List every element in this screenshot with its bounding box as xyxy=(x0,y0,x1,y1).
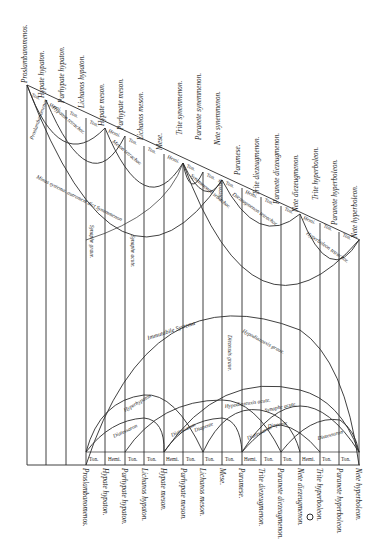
circle-marker-icon xyxy=(307,514,313,520)
label-hyperhypaton: Hyperhypaton xyxy=(122,392,153,413)
top-note-2: Parhypate hypaton. xyxy=(58,46,66,104)
label-proslambanomenos: Proslambanomenos xyxy=(28,98,49,141)
bottom-cell-13: Ton. xyxy=(341,456,350,462)
top-note-16: Paranete hyperboleon. xyxy=(331,159,339,226)
vertical-lines xyxy=(27,85,359,465)
bottom-note-8: Paramese. xyxy=(237,467,245,499)
top-note-10: Nete synemmenon. xyxy=(214,91,222,146)
bottom-cell-12: Ton. xyxy=(322,456,331,462)
bottom-cell-6: Ton. xyxy=(205,456,214,462)
top-note-13: Paranete diezeugmenon. xyxy=(273,133,281,205)
bottom-note-7: Mese. xyxy=(218,467,226,485)
bottom-note-14: Nete hyperboleon. xyxy=(354,467,362,521)
bottom-cell-10: Ton. xyxy=(283,456,292,462)
top-note-9: Paranete synemmenon. xyxy=(195,73,203,141)
label-immutable-system: Immutabile Systema xyxy=(145,319,196,341)
bottom-cell-3: Ton. xyxy=(147,456,156,462)
bottom-cell-11: Hemi. xyxy=(302,456,315,462)
top-note-1: Hypate hypaton. xyxy=(38,50,46,99)
bottom-cell-4: Hemi. xyxy=(166,456,179,462)
bottom-note-4: Hypate meson. xyxy=(159,467,167,511)
top-note-4: Hypate meson. xyxy=(98,83,106,127)
top-note-14: Nete diezeugmenon. xyxy=(292,154,300,213)
top-cell-8: Ton. xyxy=(186,162,197,171)
bottom-note-13: Paranete hyperboleon. xyxy=(335,467,343,534)
bottom-note-9: Trite diezeugmenon. xyxy=(257,468,265,526)
top-note-12: Trite diezeugmenon. xyxy=(253,137,261,195)
top-note-3: Lichanos hypaton. xyxy=(78,55,86,109)
bottom-note-labels: Proslambanomenos. Hypate hypaton. Parhyp… xyxy=(81,467,362,539)
bottom-cell-labels: Ton. Hemi. Ton. Ton. Hemi. Ton. Ton. Ton… xyxy=(89,456,350,462)
top-note-5: Parhypate meson. xyxy=(117,78,125,131)
bottom-note-1: Hypate hypaton. xyxy=(101,467,109,516)
bottom-note-2: Parhypate hypaton. xyxy=(120,467,128,525)
label-outer-system: Minus systema, autrement dict Synemmenon xyxy=(35,173,124,222)
label-diezeuxis-graue: Diezeuxis graue. xyxy=(227,334,233,371)
label-synaphe-graue: Synaphe graue. xyxy=(89,225,95,259)
top-note-6: Lichanos meson. xyxy=(137,91,145,141)
bottom-note-10: Paranete diezeugmenon. xyxy=(276,467,284,539)
bottom-cell-2: Ton. xyxy=(128,456,137,462)
top-note-0: Proslambanomenos. xyxy=(21,24,29,84)
bottom-cell-5: Ton. xyxy=(186,456,195,462)
top-note-8: Trite synemmenon. xyxy=(176,80,184,135)
bottom-note-6: Lichanos meson. xyxy=(198,467,206,517)
top-note-15: Trite hyperboleon. xyxy=(312,147,320,200)
bottom-cell-9: Ton. xyxy=(264,456,273,462)
music-system-diagram: Proslambanomenos. Hypate hypaton. Parhyp… xyxy=(0,0,384,539)
bottom-arcs xyxy=(86,316,359,465)
label-diezeuxis: Diezeuxis xyxy=(217,179,223,201)
top-note-17: Nete hyperboleon. xyxy=(351,185,359,239)
bottom-note-11: Nete diezeugmenon. xyxy=(296,467,304,526)
top-cell-14: Hemi. xyxy=(303,214,317,225)
bottom-note-12: Trite hyperboleon. xyxy=(315,468,323,521)
top-note-11: Paramese. xyxy=(234,144,242,176)
top-cell-labels: Ton. Hemi. Ton. Ton. Hemi. Ton. Ton. Hem… xyxy=(31,91,353,240)
top-arc-labels: Proslambanomenos Hypaton tetrachor. Meso… xyxy=(28,98,350,267)
label-diapente-2: Diapente xyxy=(266,420,288,430)
bottom-note-3: Lichanos hypaton. xyxy=(140,467,148,521)
label-hypodiazeuxis-graue: Hypodiazeuxis graue. xyxy=(241,327,286,355)
bottom-cell-0: Ton. xyxy=(89,456,98,462)
bottom-cell-7: Ton. xyxy=(225,456,234,462)
top-note-labels: Proslambanomenos. Hypate hypaton. Parhyp… xyxy=(21,24,359,239)
bottom-cell-1: Hemi. xyxy=(108,456,121,462)
bottom-cell-8: Hemi. xyxy=(244,456,257,462)
bottom-note-0: Proslambanomenos. xyxy=(81,467,89,527)
label-synaphe-acute: Synaphe acute. xyxy=(130,235,136,268)
bottom-note-5: Parhypate meson. xyxy=(179,467,187,520)
